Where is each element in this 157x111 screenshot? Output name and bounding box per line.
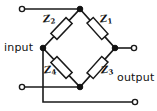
circuit-diagram-canvas: input output Z2 Z1 Z4 Z3	[0, 0, 157, 111]
z4-label: Z4	[44, 64, 57, 75]
schematic-svg	[0, 0, 157, 111]
node-dot-left	[40, 45, 46, 51]
z2-label-subscript: 2	[50, 16, 56, 25]
input-port-label: input	[4, 42, 33, 53]
node-dot-right	[112, 45, 118, 51]
z3-label-subscript: 3	[108, 67, 114, 76]
output-port-label: output	[117, 72, 154, 83]
terminal-output-bottom[interactable]	[132, 99, 137, 104]
terminal-output-top[interactable]	[131, 45, 136, 50]
node-dot-top	[77, 6, 83, 12]
z3-label: Z3	[101, 64, 114, 75]
terminal-input-bottom[interactable]	[19, 84, 24, 89]
z1-label: Z1	[100, 13, 113, 24]
terminal-input-top[interactable]	[19, 6, 24, 11]
z1-label-subscript: 1	[107, 16, 113, 25]
z4-label-subscript: 4	[51, 67, 57, 76]
z2-label: Z2	[43, 13, 56, 24]
node-dot-bottom	[77, 84, 83, 90]
